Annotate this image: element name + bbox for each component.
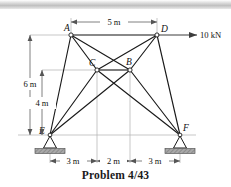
support-ground-E: [35, 149, 65, 154]
dimension-label-bottom-mid: 2 m: [107, 156, 120, 166]
joint-label-C: C: [89, 58, 96, 68]
dimension-vertical-outer: 6 m: [16, 35, 44, 135]
load-label: 10 kN: [200, 30, 222, 40]
joint-label-E: E: [38, 126, 45, 136]
figure-root: A D C B E F 5 m 6 m 4 m 3 m: [0, 0, 231, 187]
member-A-B: [71, 35, 130, 70]
dimension-label-top: 5 m: [107, 17, 120, 27]
dimension-bottom-group: 3 m 2 m 3 m: [50, 155, 180, 167]
dimension-label-6m: 6 m: [23, 79, 36, 89]
joint-node-C: [95, 68, 99, 72]
joint-label-A: A: [63, 23, 70, 33]
member-D-B: [130, 35, 157, 70]
support-triangle-E: [44, 136, 57, 148]
support-E: [35, 136, 65, 154]
joint-label-B: B: [126, 57, 132, 67]
dimension-label-bottom-left: 3 m: [66, 156, 79, 166]
dimension-label-4m: 4 m: [35, 98, 48, 108]
dimension-label-bottom-right: 3 m: [148, 156, 161, 166]
support-triangle-F: [174, 136, 187, 148]
support-ground-F: [165, 149, 195, 154]
dimension-top: 5 m: [71, 16, 157, 28]
joint-node-A: [69, 33, 73, 37]
joint-label-D: D: [160, 24, 168, 34]
support-F: [165, 136, 195, 154]
truss-diagram: A D C B E F 5 m 6 m 4 m 3 m: [0, 0, 231, 187]
joint-node-B: [128, 68, 132, 72]
figure-caption: Problem 4/43: [0, 169, 231, 181]
joint-label-F: F: [182, 123, 189, 133]
truss-members: [50, 35, 180, 135]
